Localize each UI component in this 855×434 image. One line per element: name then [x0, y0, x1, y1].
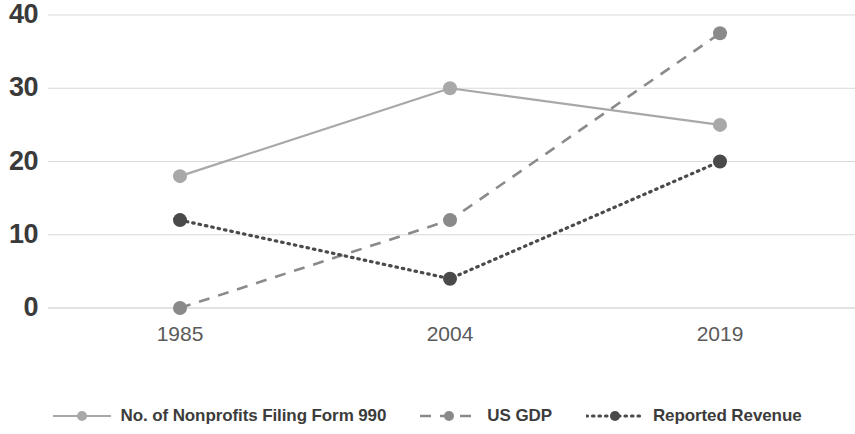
- legend-swatch-icon: [586, 409, 644, 423]
- x-axis-tick-label: 2004: [390, 323, 510, 344]
- legend-item[interactable]: US GDP: [420, 406, 552, 426]
- legend-swatch-icon: [420, 409, 478, 423]
- data-point-marker: [173, 169, 187, 183]
- y-axis-tick-label: 10: [0, 221, 38, 248]
- y-axis-tick-label: 0: [0, 294, 38, 321]
- data-point-marker: [443, 213, 457, 227]
- legend-swatch-icon: [53, 409, 111, 423]
- legend-item[interactable]: No. of Nonprofits Filing Form 990: [53, 406, 386, 426]
- plot-area: [0, 0, 855, 375]
- legend-item-label: US GDP: [487, 406, 552, 426]
- chart-legend: No. of Nonprofits Filing Form 990US GDPR…: [0, 398, 855, 434]
- data-point-marker: [443, 81, 457, 95]
- gridlines: [48, 15, 855, 308]
- data-point-marker: [173, 213, 187, 227]
- data-point-marker: [443, 272, 457, 286]
- data-point-marker: [713, 118, 727, 132]
- line-chart: 010203040 198520042019 No. of Nonprofits…: [0, 0, 855, 434]
- series-markers: [173, 26, 727, 315]
- legend-item-label: No. of Nonprofits Filing Form 990: [120, 406, 386, 426]
- data-point-marker: [173, 301, 187, 315]
- legend-item[interactable]: Reported Revenue: [586, 406, 802, 426]
- data-point-marker: [713, 155, 727, 169]
- y-axis-tick-label: 20: [0, 148, 38, 175]
- y-axis-tick-label: 40: [0, 1, 38, 28]
- series-line: [180, 88, 720, 176]
- y-axis-tick-label: 30: [0, 74, 38, 101]
- series-line: [180, 33, 720, 308]
- legend-item-label: Reported Revenue: [653, 406, 802, 426]
- series-lines: [180, 33, 720, 308]
- x-axis-tick-label: 2019: [660, 323, 780, 344]
- x-axis-tick-label: 1985: [120, 323, 240, 344]
- data-point-marker: [713, 26, 727, 40]
